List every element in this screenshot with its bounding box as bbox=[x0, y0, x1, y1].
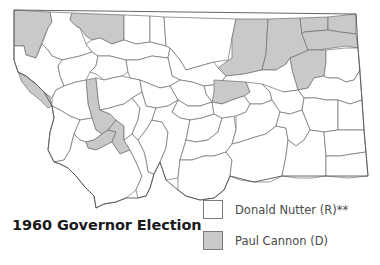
legend-swatch-democrat bbox=[203, 231, 223, 250]
county-carter bbox=[326, 152, 368, 178]
legend-label-republican: Donald Nutter (R)** bbox=[235, 203, 348, 217]
legend-swatch-republican bbox=[203, 200, 223, 219]
county-custer bbox=[324, 130, 366, 156]
county-richland bbox=[324, 48, 360, 82]
map-title: 1960 Governor Election bbox=[12, 217, 201, 233]
legend-item-republican: Donald Nutter (R)** bbox=[203, 200, 348, 219]
county-roosevelt bbox=[302, 30, 358, 50]
county-liberty bbox=[150, 16, 166, 46]
county-wibaux bbox=[338, 100, 364, 130]
legend-item-democrat: Paul Cannon (D) bbox=[203, 231, 328, 250]
county-toole bbox=[124, 15, 150, 44]
legend-label-democrat: Paul Cannon (D) bbox=[235, 234, 328, 248]
